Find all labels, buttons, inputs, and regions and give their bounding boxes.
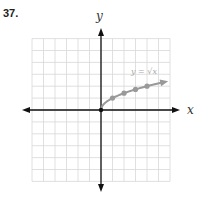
- curve-label: y = √x: [130, 67, 157, 76]
- data-point-marker: [144, 84, 149, 89]
- coordinate-plane: x y y = √x: [0, 0, 208, 206]
- data-point-marker: [121, 91, 126, 96]
- data-point-marker: [133, 87, 138, 92]
- x-axis-left-arrow-icon: [22, 107, 30, 113]
- sqrt-curve: [99, 80, 168, 113]
- x-axis-label: x: [187, 103, 194, 117]
- y-axis-down-arrow-icon: [98, 184, 104, 192]
- data-point-marker: [99, 108, 103, 112]
- y-axis-label: y: [95, 9, 103, 23]
- data-point-marker: [110, 96, 115, 101]
- x-axis-right-arrow-icon: [172, 107, 180, 113]
- y-axis-up-arrow-icon: [98, 28, 104, 36]
- curve-arrow-icon: [160, 80, 169, 87]
